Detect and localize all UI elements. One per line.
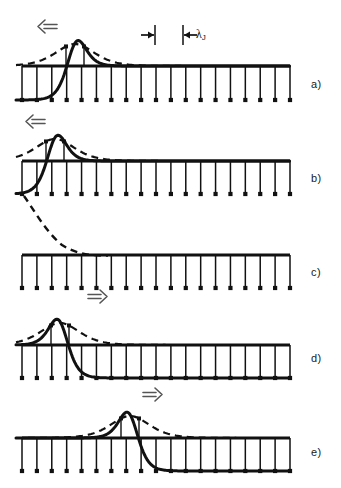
lattice-node (20, 286, 24, 290)
lattice-node (124, 469, 128, 473)
lattice-node (79, 376, 83, 380)
figure-root: λJ a) b) c) d) e) (0, 0, 341, 488)
lattice-node (154, 286, 158, 290)
lattice-node (94, 98, 98, 102)
lattice-node (288, 98, 292, 102)
lambda-j-label: λJ (196, 27, 206, 42)
lattice-node (243, 98, 247, 102)
lattice-node (65, 98, 69, 102)
lattice-node (35, 286, 39, 290)
panel-label-a: a) (311, 78, 322, 90)
panel-label-e: e) (311, 446, 322, 458)
lattice-node (109, 192, 113, 196)
panel-label-d: d) (311, 352, 322, 364)
lattice-node (139, 286, 143, 290)
lattice-node (228, 98, 232, 102)
lattice-node (50, 286, 54, 290)
lattice-node (213, 286, 217, 290)
lattice-node (243, 192, 247, 196)
lattice-node (50, 192, 54, 196)
lattice-node (65, 192, 69, 196)
lattice-node (199, 192, 203, 196)
lattice-node (258, 192, 262, 196)
lattice-node (273, 192, 277, 196)
lattice-node (109, 469, 113, 473)
lattice-node (50, 98, 54, 102)
lattice-node (199, 98, 203, 102)
lattice-node (213, 192, 217, 196)
lattice-node (35, 376, 39, 380)
lattice-node (94, 469, 98, 473)
lattice-node (94, 286, 98, 290)
lattice-node (228, 192, 232, 196)
lattice-node (288, 286, 292, 290)
lattice-node (228, 286, 232, 290)
lattice-node (65, 376, 69, 380)
lattice-node (139, 469, 143, 473)
lattice-node (258, 98, 262, 102)
lattice-node (50, 376, 54, 380)
lattice-node (169, 98, 173, 102)
lattice-node (184, 192, 188, 196)
panel-label-c: c) (311, 266, 321, 278)
lattice-node (169, 192, 173, 196)
lattice-node (65, 469, 69, 473)
lattice-node (273, 286, 277, 290)
lattice-node (109, 286, 113, 290)
lattice-node (79, 192, 83, 196)
lattice-node (50, 469, 54, 473)
panel-label-b: b) (311, 172, 322, 184)
lattice-node (288, 192, 292, 196)
lattice-node (124, 286, 128, 290)
lattice-node (94, 192, 98, 196)
lattice-node (79, 286, 83, 290)
soliton-lattice-figure (0, 0, 341, 488)
lattice-node (35, 192, 39, 196)
lattice-node (124, 192, 128, 196)
lattice-node (65, 286, 69, 290)
lattice-node (213, 98, 217, 102)
lattice-node (184, 98, 188, 102)
lattice-node (79, 469, 83, 473)
lattice-node (169, 286, 173, 290)
lattice-node (20, 469, 24, 473)
lattice-node (35, 469, 39, 473)
lattice-node (154, 192, 158, 196)
lattice-node (20, 376, 24, 380)
lattice-node (273, 98, 277, 102)
lattice-node (139, 192, 143, 196)
lattice-node (124, 98, 128, 102)
lattice-node (243, 286, 247, 290)
lattice-node (139, 98, 143, 102)
lattice-node (79, 98, 83, 102)
lattice-node (154, 98, 158, 102)
lattice-node (258, 286, 262, 290)
lattice-node (184, 286, 188, 290)
lattice-node (109, 98, 113, 102)
lattice-node (199, 286, 203, 290)
